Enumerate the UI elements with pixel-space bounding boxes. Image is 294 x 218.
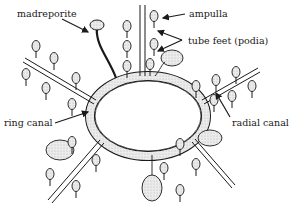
ampulla-label: ampulla [189, 9, 228, 19]
madreporite-label: madreporite [17, 9, 77, 19]
radial-canal-label: radial canal [232, 118, 289, 128]
tube-feet-label: tube feet (podia) [188, 36, 268, 46]
water-vascular-system-diagram [0, 0, 294, 218]
madreporite [90, 20, 116, 78]
ring-canal [90, 76, 206, 156]
ring-canal-label: ring canal [4, 118, 53, 128]
